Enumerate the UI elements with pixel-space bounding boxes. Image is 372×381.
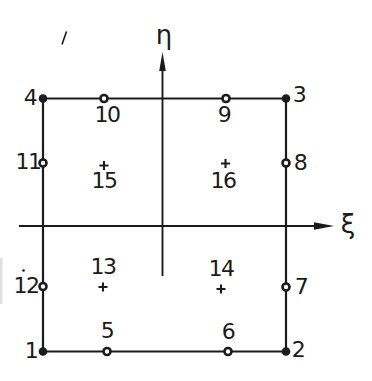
node-marker-7	[283, 284, 290, 291]
node-marker-12	[40, 283, 47, 290]
xi-axis-label: ξ	[341, 211, 356, 237]
eta-axis-arrowhead	[159, 52, 166, 71]
node-marker-8	[283, 160, 290, 167]
node-label-3: 3	[293, 84, 306, 106]
node-label-13: 13	[91, 256, 116, 278]
node-marker-1	[39, 347, 48, 356]
node-label-4: 4	[24, 87, 37, 109]
node-label-11: 11	[16, 151, 41, 173]
node-marker-2	[282, 347, 291, 356]
node-label-6: 6	[222, 321, 235, 343]
scan-artifact	[0, 258, 3, 304]
interior-node-marker-16	[221, 159, 230, 168]
node-label-7: 7	[295, 276, 308, 298]
node-label-9: 9	[218, 104, 231, 126]
node-label-1: 1	[25, 340, 38, 362]
node-label-12: 12	[14, 275, 39, 297]
xi-axis-arrowhead	[314, 222, 334, 229]
node-label-10: 10	[95, 104, 120, 126]
node-label-16: 16	[211, 170, 236, 192]
node-label-14: 14	[209, 258, 234, 280]
diagram-canvas	[0, 0, 372, 381]
node-marker-11	[40, 160, 47, 167]
node-marker-4	[39, 94, 48, 103]
stray-dot	[22, 269, 25, 272]
interior-node-marker-13	[99, 283, 108, 292]
finite-element-diagram: η ξ 1 2 3 4 5 6 7 8 9 10 11 12 13 14 15 …	[0, 0, 372, 381]
node-marker-6	[225, 348, 232, 355]
node-label-8: 8	[294, 152, 307, 174]
node-marker-9	[223, 95, 230, 102]
stray-mark	[62, 32, 67, 45]
eta-axis-label: η	[156, 22, 172, 48]
node-label-15: 15	[92, 170, 117, 192]
node-marker-5	[104, 348, 111, 355]
node-label-5: 5	[101, 320, 114, 342]
node-marker-10	[101, 95, 108, 102]
element-outline	[43, 99, 286, 352]
node-label-2: 2	[292, 339, 305, 361]
interior-node-marker-14	[217, 285, 226, 294]
node-marker-3	[282, 94, 291, 103]
